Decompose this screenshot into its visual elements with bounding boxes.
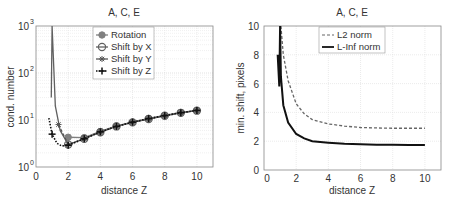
x-tick-label: 8 <box>162 171 168 182</box>
legend-rotation: Rotation <box>111 29 146 40</box>
y-tick-exponent: 2 <box>30 65 34 72</box>
right-chart-title: A, C, E <box>336 7 368 18</box>
right-x-axis-label: distance Z <box>329 185 375 196</box>
legend-l2-norm: L2 norm <box>337 29 372 40</box>
marker-star <box>56 122 62 128</box>
marker-filled-circle <box>99 32 105 38</box>
x-tick-label: 2 <box>65 171 71 182</box>
y-tick-exponent: 0 <box>30 159 34 166</box>
marker-star <box>99 56 105 62</box>
y-tick-label: 2 <box>253 136 259 147</box>
x-tick-label: 4 <box>98 171 104 182</box>
x-tick-label: 10 <box>419 173 431 184</box>
legend-shift-y: Shift by Y <box>111 53 152 64</box>
x-tick-label: 6 <box>358 173 364 184</box>
y-tick-label: 0 <box>253 165 259 176</box>
series-line-2 <box>59 111 197 145</box>
legend-shift-z: Shift by Z <box>111 65 151 76</box>
y-tick-label: 8 <box>253 50 259 61</box>
y-tick-label: 4 <box>253 107 259 118</box>
y-tick-label: 10 <box>248 21 260 32</box>
series-line-3 <box>49 110 197 146</box>
x-tick-label: 10 <box>191 171 203 182</box>
y-tick-exponent: 3 <box>30 18 34 25</box>
y-tick-label: 10 <box>18 68 30 79</box>
y-tick-label: 10 <box>18 162 30 173</box>
x-tick-label: 2 <box>293 173 299 184</box>
y-tick-label: 10 <box>18 21 30 32</box>
y-tick-exponent: 1 <box>30 112 34 119</box>
x-tick-label: 0 <box>264 173 270 184</box>
right-legend: L2 norm L-Inf norm <box>319 27 385 53</box>
marker-plus <box>49 131 56 138</box>
y-tick-label: 10 <box>18 115 30 126</box>
figure: A, C, E 0246810100101102103 distance Z c… <box>0 0 451 199</box>
left-y-axis-label: cond. number <box>5 66 16 128</box>
left-x-axis-label: distance Z <box>101 185 147 196</box>
left-legend: Rotation Shift by X Shift by Y Shift by … <box>93 27 154 79</box>
x-tick-label: 6 <box>130 171 136 182</box>
legend-linf-norm: L-Inf norm <box>337 41 380 52</box>
right-y-axis-label: min. shift, pixels <box>235 62 246 133</box>
right-chart: A, C, E 02468100246810 distance Z min. s… <box>235 7 441 196</box>
legend-shift-x: Shift by X <box>111 41 152 52</box>
y-tick-label: 6 <box>253 79 259 90</box>
x-tick-label: 4 <box>326 173 332 184</box>
left-chart: A, C, E 0246810100101102103 distance Z c… <box>5 7 213 196</box>
x-tick-label: 8 <box>390 173 396 184</box>
left-chart-title: A, C, E <box>108 7 140 18</box>
x-tick-label: 0 <box>33 171 39 182</box>
